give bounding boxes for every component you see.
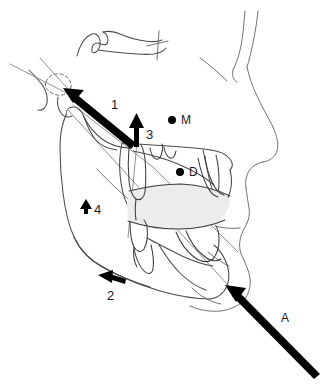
label-arrow-1: 1 xyxy=(111,98,118,111)
soft-tissue-lower-lip xyxy=(240,223,247,258)
landmark-dot-D xyxy=(176,168,184,176)
soft-tissue-nasal-dorsum xyxy=(247,67,273,127)
label-arrow-3: 3 xyxy=(146,128,153,141)
lip-opening-line xyxy=(215,226,240,228)
occlusal-band-fill xyxy=(127,184,230,230)
label-arrow-2: 2 xyxy=(107,289,114,302)
mandible-symphysis xyxy=(210,262,229,299)
cephalometric-tracing-svg xyxy=(0,0,329,387)
cranial-base-group xyxy=(77,31,168,60)
soft-tissue-profile-group xyxy=(190,11,278,311)
orbital-contour-left xyxy=(58,97,72,117)
soft-tissue-columella xyxy=(246,162,263,188)
force-arrow-4-head xyxy=(80,199,92,209)
label-point-M: M xyxy=(181,114,191,126)
cephalometric-figure: 1 3 2 4 A M D xyxy=(0,0,329,387)
label-arrow-A: A xyxy=(281,312,289,324)
mandible-ramus-posterior xyxy=(60,115,103,267)
soft-tissue-glabella xyxy=(233,70,237,82)
lower-lip-inner xyxy=(208,252,229,266)
soft-tissue-nasal-tip xyxy=(263,127,278,162)
upper-molar-cusps xyxy=(164,147,176,158)
soft-tissue-upper-lip xyxy=(246,188,249,223)
lower-molar-distal xyxy=(213,226,219,259)
force-arrow-2-head xyxy=(98,270,113,283)
anterior-cranial-floor xyxy=(29,70,47,110)
chin-soft-contour xyxy=(192,288,221,304)
force-arrow-3-head xyxy=(129,113,144,128)
soft-tissue-nasion-crease xyxy=(200,58,227,81)
soft-tissue-forehead xyxy=(233,11,245,70)
occlusal-shading-group xyxy=(127,184,230,230)
planum-sphenoidale xyxy=(98,48,166,54)
cranial-base-outline xyxy=(77,32,108,56)
force-arrow-1-shaft xyxy=(70,93,136,149)
soft-tissue-chin xyxy=(243,258,250,299)
cross-mark-vertical xyxy=(157,31,159,60)
force-arrow-A xyxy=(225,285,320,379)
maxilla-anterior-nasal-spine xyxy=(211,150,232,170)
sella-turcica-outline xyxy=(103,31,162,41)
force-arrow-A-shaft xyxy=(232,291,320,379)
reference-line-ramus xyxy=(73,105,154,168)
force-arrow-1 xyxy=(63,88,136,149)
label-arrow-4: 4 xyxy=(94,203,101,216)
force-arrow-4 xyxy=(80,199,92,214)
soft-tissue-forehead-inner xyxy=(247,11,258,67)
label-point-D: D xyxy=(189,166,198,178)
mandible-body-inferior-border xyxy=(103,267,210,299)
landmark-dot-M xyxy=(168,116,176,124)
